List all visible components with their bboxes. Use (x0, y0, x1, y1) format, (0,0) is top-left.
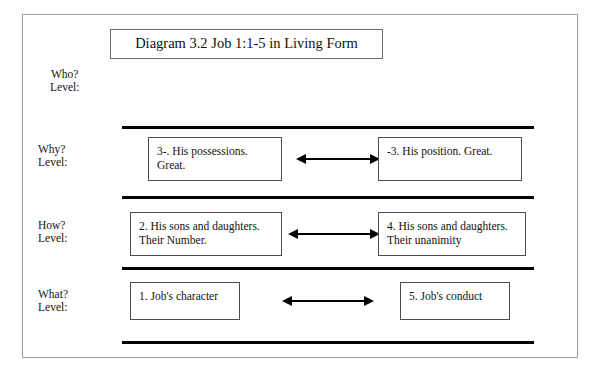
row-label-how: How? Level: (38, 219, 67, 245)
row-label-who-line2: Level: (50, 81, 79, 94)
separator-rule-1 (122, 126, 534, 129)
separator-rule-4 (122, 341, 534, 344)
double-headed-arrow-how (288, 227, 380, 241)
row-label-why-line2: Level: (38, 156, 67, 169)
box-what-left-line1: 1. Job's character (139, 289, 231, 303)
box-how-right-line1: 4. His sons and daughters. (387, 219, 517, 233)
box-what-right-line1: 5. Job's conduct (409, 289, 501, 303)
box-how-left: 2. His sons and daughters. Their Number. (130, 212, 282, 256)
diagram-page: Diagram 3.2 Job 1:1-5 in Living Form Who… (0, 0, 602, 372)
diagram-title-box: Diagram 3.2 Job 1:1-5 in Living Form (110, 29, 383, 59)
row-label-what-line1: What? (38, 288, 68, 300)
row-label-what: What? Level: (38, 288, 68, 314)
double-headed-arrow-why (296, 152, 380, 166)
box-why-left-line1: 3-. His possessions. (157, 144, 273, 158)
box-what-left: 1. Job's character (130, 282, 240, 320)
box-how-right: 4. His sons and daughters. Their unanimi… (378, 212, 526, 256)
separator-rule-2 (122, 196, 534, 199)
row-label-why-line1: Why? (38, 143, 65, 155)
double-headed-arrow-what (282, 294, 374, 308)
row-label-why: Why? Level: (38, 143, 67, 169)
box-why-left: 3-. His possessions. Great. (148, 137, 282, 181)
row-label-who: Who? Level: (50, 68, 79, 94)
box-how-left-line1: 2. His sons and daughters. (139, 219, 273, 233)
row-label-how-line2: Level: (38, 232, 67, 245)
box-how-right-line2: Their unanimity (387, 233, 517, 247)
row-label-who-line1: Who? (51, 68, 78, 80)
box-why-left-line2: Great. (157, 158, 273, 172)
box-why-right-line1: -3. His position. Great. (387, 144, 513, 158)
row-label-how-line1: How? (38, 219, 65, 231)
row-label-what-line2: Level: (38, 301, 68, 314)
box-how-left-line2: Their Number. (139, 233, 273, 247)
separator-rule-3 (122, 267, 534, 270)
box-what-right: 5. Job's conduct (400, 282, 510, 320)
box-why-right: -3. His position. Great. (378, 137, 522, 181)
diagram-title: Diagram 3.2 Job 1:1-5 in Living Form (135, 36, 358, 52)
